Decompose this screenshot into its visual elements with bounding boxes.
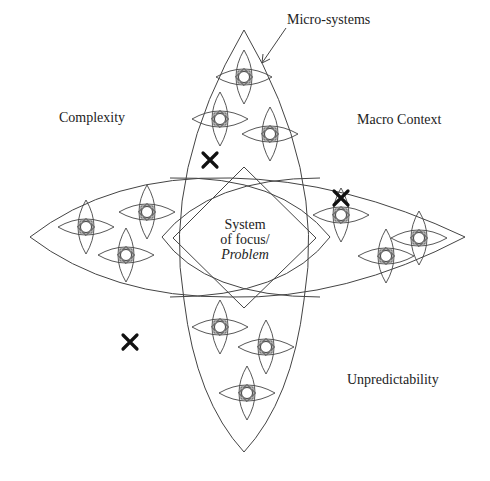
center-label-line3: Problem xyxy=(204,247,286,262)
micro-system-icon xyxy=(358,229,414,283)
micro-system-icon xyxy=(216,50,272,104)
x-mark-icon xyxy=(123,335,137,349)
center-label-line1: System xyxy=(204,217,286,232)
micro-systems-label: Micro-systems xyxy=(287,12,370,28)
micro-system-icon xyxy=(242,107,298,161)
x-mark-icon xyxy=(203,153,217,167)
micro-system-icon xyxy=(391,211,447,265)
micro-system-icon xyxy=(58,200,114,254)
macro-context-label: Macro Context xyxy=(357,112,441,128)
micro-systems-arrow xyxy=(262,28,286,63)
micro-system-icon xyxy=(192,92,248,146)
system-of-focus-label: System of focus/ Problem xyxy=(204,217,286,262)
center-label-line2: of focus/ xyxy=(204,232,286,247)
micro-system-icon xyxy=(219,366,275,420)
unpredictability-label: Unpredictability xyxy=(347,372,439,388)
complexity-label: Complexity xyxy=(59,110,125,126)
